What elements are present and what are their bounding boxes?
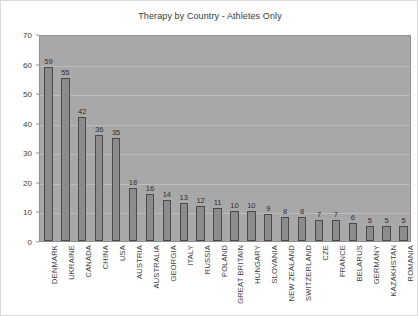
bar xyxy=(213,208,221,241)
x-tick-label: DENMARK xyxy=(50,245,59,284)
bar xyxy=(78,117,86,241)
x-tick-label: GREAT BRITAIN xyxy=(236,245,245,304)
bar-value-label: 8 xyxy=(283,207,287,216)
x-tick-label: CZE xyxy=(321,245,330,261)
bar-slot xyxy=(281,217,289,241)
bar-value-label: 11 xyxy=(214,198,222,207)
bar-slot xyxy=(78,117,86,241)
bar xyxy=(264,214,272,241)
x-tick-label: CHINA xyxy=(101,245,110,269)
x-tick-label: POLAND xyxy=(220,245,229,277)
bar-slot xyxy=(264,214,272,241)
bar xyxy=(382,226,390,241)
bar-value-label: 5 xyxy=(368,216,372,225)
x-tick-label: SLOVANIA xyxy=(270,245,279,284)
bar xyxy=(129,188,137,241)
x-tick-label: CANADA xyxy=(84,245,93,277)
x-tick-label: KAZAKHSTAN xyxy=(389,245,398,296)
bar-value-label: 7 xyxy=(317,210,321,219)
y-tick-label: 0 xyxy=(28,238,32,247)
bar-slot xyxy=(349,223,357,241)
bar-value-label: 12 xyxy=(196,196,204,205)
y-tick-label: 70 xyxy=(23,31,32,40)
bar-slot xyxy=(112,138,120,242)
chart-title: Therapy by Country - Athletes Only xyxy=(1,11,418,21)
x-tick-label: GEORGIA xyxy=(169,245,178,281)
bar xyxy=(44,67,52,241)
bar xyxy=(332,220,340,241)
bar-slot xyxy=(366,226,374,241)
x-tick-label: USA xyxy=(118,245,127,261)
y-axis: 010203040506070 xyxy=(1,35,39,242)
bar-value-label: 14 xyxy=(163,190,171,199)
bar xyxy=(95,135,103,241)
bar-value-label: 6 xyxy=(351,213,355,222)
bar-value-label: 8 xyxy=(300,207,304,216)
x-tick-label: NEW ZEALAND xyxy=(287,245,296,301)
bar-value-label: 36 xyxy=(95,125,103,134)
bar-value-label: 59 xyxy=(44,57,52,66)
y-tick-label: 30 xyxy=(23,149,32,158)
bar-slot xyxy=(196,206,204,241)
bar-value-label: 16 xyxy=(146,184,154,193)
bar-value-label: 18 xyxy=(129,178,137,187)
x-tick-label: AUSTRIA xyxy=(135,245,144,279)
bar-value-label: 35 xyxy=(112,128,120,137)
y-tick-label: 50 xyxy=(23,90,32,99)
y-tick-label: 10 xyxy=(23,208,32,217)
bar xyxy=(180,203,188,241)
x-tick-label: SWITZERLAND xyxy=(304,245,313,301)
bar-value-label: 10 xyxy=(230,201,238,210)
gridline xyxy=(40,95,410,96)
bar xyxy=(112,138,120,242)
y-tick-label: 20 xyxy=(23,178,32,187)
bar xyxy=(315,220,323,241)
x-tick-label: RUSSIA xyxy=(203,245,212,274)
bar xyxy=(349,223,357,241)
x-tick-label: HUNGARY xyxy=(253,245,262,284)
bar xyxy=(196,206,204,241)
bar-slot xyxy=(213,208,221,241)
bar-value-label: 10 xyxy=(247,201,255,210)
bar xyxy=(163,200,171,241)
bar-slot xyxy=(315,220,323,241)
x-tick-label: BELARUS xyxy=(355,245,364,281)
bar-value-label: 5 xyxy=(385,216,389,225)
bar xyxy=(146,194,154,241)
x-tick-label: ITALY xyxy=(186,245,195,266)
bar-slot xyxy=(44,67,52,241)
bar xyxy=(366,226,374,241)
x-tick-label: AUSTRALIA xyxy=(152,245,161,288)
x-tick-label: UKRAINE xyxy=(67,245,76,280)
y-tick-label: 60 xyxy=(23,60,32,69)
bar-slot xyxy=(230,211,238,241)
gridline xyxy=(40,66,410,67)
bar-value-label: 55 xyxy=(61,68,69,77)
y-tick-label: 40 xyxy=(23,119,32,128)
plot-area: 59554236351816141312111010988776555 xyxy=(39,35,411,242)
bar xyxy=(230,211,238,241)
bar-slot xyxy=(95,135,103,241)
bar-value-label: 13 xyxy=(180,193,188,202)
x-tick-label: ROMANIA xyxy=(406,245,415,281)
x-tick-label: FRANCE xyxy=(338,245,347,277)
bar xyxy=(281,217,289,241)
bar-slot xyxy=(129,188,137,241)
bar-slot xyxy=(382,226,390,241)
bar-slot xyxy=(146,194,154,241)
bar-slot xyxy=(298,217,306,241)
x-tick-label: GERMANY xyxy=(372,245,381,284)
bar-value-label: 42 xyxy=(78,107,86,116)
bar-slot xyxy=(332,220,340,241)
bar-slot xyxy=(399,226,407,241)
bar-slot xyxy=(61,78,69,241)
bar-slot xyxy=(180,203,188,241)
bar-slot xyxy=(163,200,171,241)
bar xyxy=(247,211,255,241)
bar-value-label: 7 xyxy=(334,210,338,219)
bar xyxy=(399,226,407,241)
bar xyxy=(298,217,306,241)
bar-slot xyxy=(247,211,255,241)
bar-value-label: 5 xyxy=(401,216,405,225)
chart-figure: Therapy by Country - Athletes Only 01020… xyxy=(0,0,418,316)
